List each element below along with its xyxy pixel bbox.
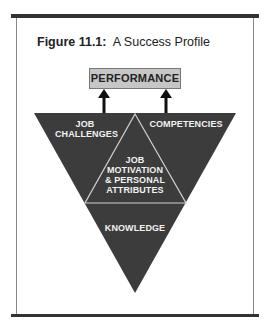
- label-line: COMPETENCIES: [148, 119, 224, 129]
- label-knowledge: KNOWLEDGE: [100, 223, 170, 233]
- label-job-challenges: JOB CHALLENGES: [55, 119, 115, 139]
- label-competencies: COMPETENCIES: [148, 119, 224, 129]
- label-line: CHALLENGES: [55, 129, 115, 139]
- label-line: JOB: [55, 119, 115, 129]
- label-line: JOB: [100, 155, 170, 165]
- label-line: & PERSONAL: [100, 175, 170, 185]
- label-line: MOTIVATION: [100, 165, 170, 175]
- arrow-up-icon: [98, 89, 110, 113]
- label-line: ATTRIBUTES: [100, 185, 170, 195]
- label-job-motivation: JOB MOTIVATION & PERSONAL ATTRIBUTES: [100, 155, 170, 195]
- label-line: KNOWLEDGE: [100, 223, 170, 233]
- arrow-up-icon: [160, 89, 172, 113]
